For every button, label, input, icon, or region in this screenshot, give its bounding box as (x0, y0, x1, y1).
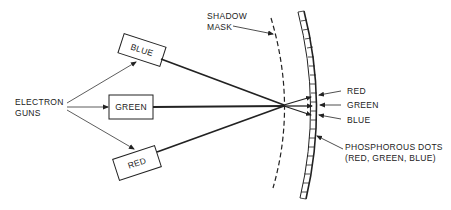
shadow-mask-label: SHADOW MASK (207, 11, 247, 32)
svg-text:SHADOW: SHADOW (207, 11, 247, 21)
svg-text:GREEN: GREEN (347, 100, 379, 110)
svg-text:(RED, GREEN, BLUE): (RED, GREEN, BLUE) (345, 153, 436, 163)
shadow-mask-pointer (233, 26, 273, 34)
svg-text:PHOSPHOROUS DOTS: PHOSPHOROUS DOTS (345, 142, 443, 152)
svg-text:RED: RED (347, 86, 366, 96)
phosphor-screen (298, 11, 317, 199)
svg-text:BLUE: BLUE (347, 115, 370, 125)
gun-blue: BLUE (118, 34, 166, 67)
beam-arrows (284, 97, 312, 115)
electron-guns-label: ELECTRON GUNS (15, 97, 64, 118)
svg-text:GREEN: GREEN (115, 102, 147, 112)
gun-red: RED (113, 146, 162, 181)
dot-labels: RED GREEN BLUE (319, 86, 379, 125)
electron-beams (153, 59, 284, 152)
svg-text:MASK: MASK (207, 22, 232, 32)
svg-text:GUNS: GUNS (15, 108, 41, 118)
gun-green: GREEN (109, 95, 153, 119)
phosphor-label: PHOSPHOROUS DOTS (RED, GREEN, BLUE) (317, 136, 443, 163)
svg-text:ELECTRON: ELECTRON (15, 97, 64, 107)
crt-diagram: ELECTRON GUNS BLUE GREEN RED SHADOW MASK (0, 0, 451, 210)
